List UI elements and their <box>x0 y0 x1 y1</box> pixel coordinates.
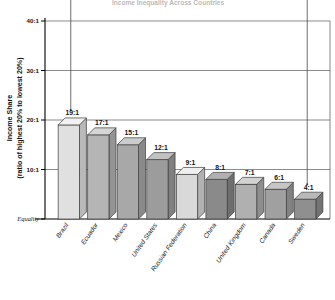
value-label-4: 9:1 <box>186 159 196 166</box>
chart-canvas: Income Inequality Across Countries 40:13… <box>0 0 335 300</box>
value-label-8: 4:1 <box>304 184 314 191</box>
income-share-chart: Income Inequality Across Countries 40:13… <box>0 0 335 300</box>
bar-united-kingdom <box>235 177 263 219</box>
category-labels: BrazilEcuadorMexicoUnited StatesRussian … <box>54 221 306 273</box>
category-label-5: China <box>202 221 218 239</box>
bar-front-face <box>265 189 286 219</box>
bar-front-face <box>295 199 316 219</box>
value-label-6: 7:1 <box>245 169 255 176</box>
bar-side-face <box>198 167 205 219</box>
bars <box>58 118 323 219</box>
bar-side-face <box>227 172 234 219</box>
bar-front-face <box>176 174 197 219</box>
bar-side-face <box>139 138 146 219</box>
value-label-5: 8:1 <box>215 164 225 171</box>
bar-front-face <box>58 125 79 219</box>
bar-front-face <box>235 184 256 219</box>
y-tick-label-2: 20:1 <box>27 116 40 123</box>
y-axis-title-line2: (ratio of highest 20% to lowest 20%) <box>16 57 24 179</box>
category-label-0: Brazil <box>54 221 69 239</box>
value-label-3: 12:1 <box>154 144 168 151</box>
y-tick-label-4: Equality <box>16 215 39 222</box>
value-label-7: 6:1 <box>274 174 284 181</box>
y-tick-label-3: 10:1 <box>27 166 40 173</box>
bar-front-face <box>147 160 168 219</box>
category-label-7: Canada <box>257 221 276 244</box>
y-tick-label-1: 30:1 <box>27 67 40 74</box>
value-label-1: 17:1 <box>95 119 109 126</box>
bar-sweden <box>295 192 323 219</box>
value-label-2: 15:1 <box>125 129 139 136</box>
bar-side-face <box>79 118 86 219</box>
bar-front-face <box>206 179 227 219</box>
bar-brazil <box>58 118 86 219</box>
category-label-3: United States <box>130 221 159 258</box>
category-label-1: Ecuador <box>79 221 99 246</box>
bar-front-face <box>117 145 138 219</box>
y-axis-title-line1: Income Share <box>6 95 14 142</box>
bar-front-face <box>88 135 109 219</box>
value-label-0: 19:1 <box>65 109 79 116</box>
bar-side-face <box>168 153 175 219</box>
y-tick-label-0: 40:1 <box>27 17 40 24</box>
bar-china <box>206 172 234 219</box>
bar-side-face <box>109 128 116 219</box>
category-label-2: Mexico <box>111 221 129 242</box>
bar-canada <box>265 182 293 219</box>
bar-ecuador <box>88 128 116 219</box>
category-label-8: Sweden <box>287 221 307 245</box>
category-label-6: United Kingdom <box>214 221 248 264</box>
bar-russian-federation <box>176 167 204 219</box>
bar-united-states <box>147 153 175 219</box>
bar-mexico <box>117 138 145 219</box>
chart-title: Income Inequality Across Countries <box>112 0 225 7</box>
